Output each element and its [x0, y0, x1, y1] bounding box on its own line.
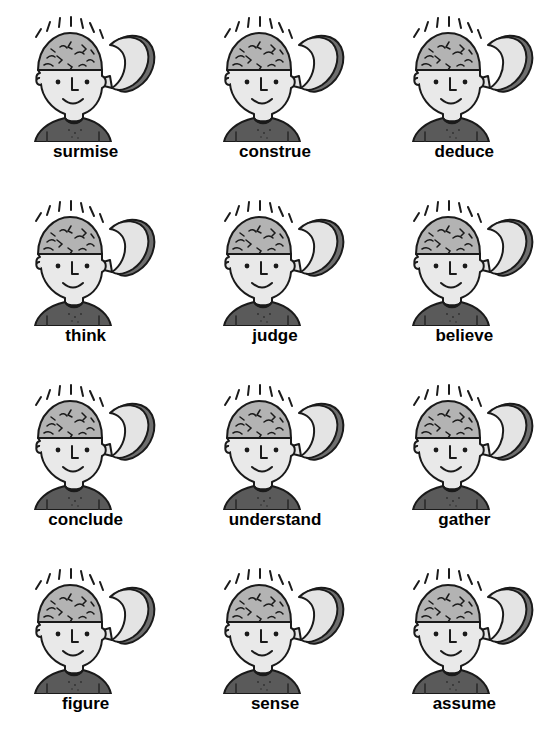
head-with-open-skull-brain-icon — [200, 566, 350, 694]
word-label: surmise — [53, 143, 118, 160]
figure-cell: judge — [183, 184, 366, 368]
word-label: figure — [62, 695, 109, 712]
word-label: believe — [435, 327, 493, 344]
head-with-open-skull-brain-icon — [200, 382, 350, 510]
word-label: deduce — [435, 143, 495, 160]
figure-cell: gather — [367, 368, 550, 552]
head-with-open-skull-brain-icon — [11, 198, 161, 326]
figure-cell: believe — [367, 184, 550, 368]
word-label: conclude — [48, 511, 123, 528]
figure-cell: understand — [183, 368, 366, 552]
figure-cell: surmise — [0, 0, 183, 184]
head-with-open-skull-brain-icon — [389, 198, 539, 326]
word-label: construe — [239, 143, 311, 160]
figure-cell: think — [0, 184, 183, 368]
illustration-grid: surmiseconstruededucethinkjudgebelieveco… — [0, 0, 550, 736]
head-with-open-skull-brain-icon — [200, 14, 350, 142]
word-label: think — [65, 327, 106, 344]
head-with-open-skull-brain-icon — [389, 382, 539, 510]
figure-cell: assume — [367, 552, 550, 736]
head-with-open-skull-brain-icon — [200, 198, 350, 326]
word-label: understand — [229, 511, 322, 528]
head-with-open-skull-brain-icon — [11, 14, 161, 142]
head-with-open-skull-brain-icon — [11, 566, 161, 694]
figure-cell: construe — [183, 0, 366, 184]
figure-cell: sense — [183, 552, 366, 736]
word-label: judge — [252, 327, 297, 344]
figure-cell: conclude — [0, 368, 183, 552]
head-with-open-skull-brain-icon — [11, 382, 161, 510]
word-label: sense — [251, 695, 299, 712]
head-with-open-skull-brain-icon — [389, 566, 539, 694]
word-label: gather — [438, 511, 490, 528]
figure-cell: deduce — [367, 0, 550, 184]
word-label: assume — [433, 695, 496, 712]
figure-cell: figure — [0, 552, 183, 736]
head-with-open-skull-brain-icon — [389, 14, 539, 142]
